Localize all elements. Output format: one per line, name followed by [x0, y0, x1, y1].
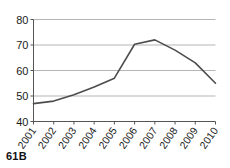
x-tick-label: 2001 [15, 125, 38, 151]
x-tick-label: 2002 [35, 125, 58, 151]
y-tick-label: 50 [16, 90, 28, 102]
y-tick-label: 80 [16, 14, 28, 26]
figure-caption: 61B [6, 150, 27, 162]
line-chart: 4050607080200120022003200420052006200720… [0, 0, 230, 168]
x-tick-label: 2009 [177, 125, 200, 151]
figure-61b: 4050607080200120022003200420052006200720… [0, 0, 230, 168]
x-tick-label: 2004 [76, 125, 99, 151]
x-tick-label: 2008 [156, 125, 179, 151]
y-axis-ticks: 4050607080 [16, 14, 33, 128]
x-tick-label: 2003 [55, 125, 78, 151]
x-tick-label: 2007 [136, 125, 159, 151]
x-tick-label: 2006 [116, 125, 139, 151]
x-tick-label: 2010 [197, 125, 220, 151]
y-tick-label: 70 [16, 39, 28, 51]
x-tick-label: 2005 [96, 125, 119, 151]
y-tick-label: 60 [16, 65, 28, 77]
x-axis-ticks: 2001200220032004200520062007200820092010 [15, 122, 220, 151]
